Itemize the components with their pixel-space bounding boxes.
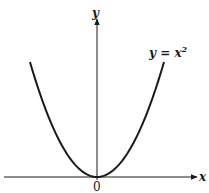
curve-label-exponent: 2 (181, 44, 188, 54)
parabola-figure: y x 0 y = x2 (0, 0, 209, 193)
curve-label-main: y = x (148, 46, 182, 60)
y-axis-label: y (91, 6, 100, 20)
curve-label: y = x2 (148, 44, 188, 60)
origin-label: 0 (93, 180, 101, 193)
x-axis-label: x (198, 170, 207, 184)
